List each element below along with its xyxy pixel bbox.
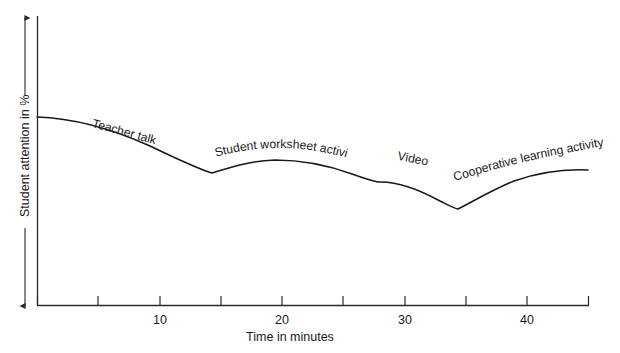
label-video: Video <box>396 149 429 169</box>
y-axis-annotation-group: Student attention in % <box>18 18 32 306</box>
x-tick-label-40: 40 <box>520 313 534 327</box>
x-tick-label-30: 30 <box>398 313 412 327</box>
curve-segment-labels: Teacher talk Student worksheet activity … <box>0 0 605 184</box>
x-tick-label-20: 20 <box>275 313 289 327</box>
label-student-worksheet-activity-text: Student worksheet activity <box>0 0 349 160</box>
label-teacher-talk: Teacher talk <box>91 116 159 147</box>
x-axis-ticks <box>38 296 589 305</box>
label-teacher-talk-text: Teacher talk <box>91 116 159 147</box>
x-axis-title: Time in minutes <box>246 330 334 344</box>
label-student-worksheet-activity: Student worksheet activity <box>0 0 349 160</box>
attention-curve-figure: Student attention in % 10 20 30 40 Time … <box>0 0 620 353</box>
chart-canvas: Student attention in % 10 20 30 40 Time … <box>0 0 620 353</box>
label-video-text: Video <box>396 149 429 169</box>
y-axis-title: Student attention in % <box>18 95 32 217</box>
x-axis-tick-labels: 10 20 30 40 <box>153 313 534 327</box>
x-tick-label-10: 10 <box>153 313 167 327</box>
